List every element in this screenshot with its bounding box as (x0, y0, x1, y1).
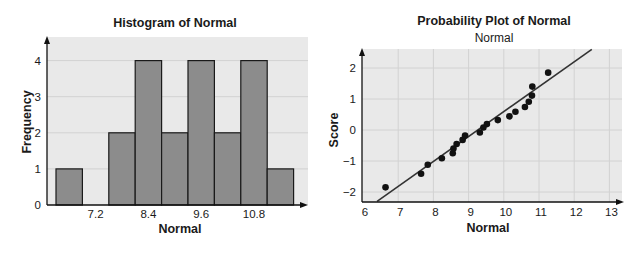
histogram-title: Histogram of Normal (113, 16, 237, 30)
data-point (382, 184, 389, 191)
histogram-y-axis-label: Frequency (20, 90, 34, 153)
data-point (529, 83, 536, 90)
y-tick-label: 1 (350, 93, 356, 105)
data-point (462, 132, 469, 139)
data-point (418, 170, 425, 177)
histogram-x-tick-labels: 7.28.49.610.8 (88, 208, 266, 220)
histogram-bar (162, 133, 188, 205)
histogram-bar (188, 61, 214, 205)
data-point (439, 155, 446, 162)
probability-plot-area (362, 49, 622, 202)
data-point (512, 108, 519, 115)
probability-y-axis-label: Score (327, 113, 341, 148)
y-tick-label: 2 (35, 127, 41, 139)
data-point (495, 117, 502, 124)
data-point (424, 161, 431, 168)
x-tick-label: 10.8 (243, 208, 265, 220)
x-tick-label: 12 (570, 206, 583, 218)
probability-y-tick-labels: −2−1012 (343, 62, 356, 198)
y-tick-label: −1 (343, 155, 356, 167)
histogram-bar (214, 133, 240, 205)
histogram-bar (135, 61, 161, 205)
y-tick-label: 2 (350, 62, 356, 74)
x-tick-label: 8 (432, 206, 438, 218)
probability-plot-chart: −2−1012 678910111213 Probability Plot of… (327, 14, 624, 235)
histogram-y-tick-labels: 01234 (35, 55, 42, 211)
probability-x-axis-label: Normal (466, 221, 509, 235)
histogram-bar (109, 133, 135, 205)
histogram-chart: 01234 7.28.49.610.8 Histogram of Normal … (20, 16, 308, 236)
histogram-bar (56, 169, 82, 205)
x-tick-label: 9.6 (193, 208, 209, 220)
histogram-bar (267, 169, 293, 205)
data-point (529, 92, 536, 99)
histogram-bar (241, 61, 267, 205)
charts-canvas: 01234 7.28.49.610.8 Histogram of Normal … (0, 0, 641, 254)
histogram-x-axis-label: Normal (158, 222, 201, 236)
data-point (522, 104, 529, 111)
probability-plot-subtitle: Normal (475, 31, 514, 45)
x-tick-label: 11 (535, 206, 547, 218)
data-point (545, 69, 552, 76)
x-tick-label: 10 (499, 206, 512, 218)
data-point (453, 141, 460, 148)
y-tick-label: 4 (35, 55, 42, 67)
x-tick-label: 7 (397, 206, 403, 218)
probability-plot-title: Probability Plot of Normal (417, 14, 571, 28)
y-tick-label: −2 (343, 186, 356, 198)
y-tick-label: 1 (35, 163, 41, 175)
x-tick-label: 7.2 (88, 208, 104, 220)
x-tick-label: 9 (467, 206, 473, 218)
y-tick-label: 0 (35, 199, 41, 211)
x-tick-label: 6 (362, 206, 368, 218)
probability-x-tick-labels: 678910111213 (362, 206, 618, 218)
data-point (484, 121, 491, 128)
data-point (506, 113, 513, 120)
y-tick-label: 3 (35, 91, 41, 103)
x-tick-label: 8.4 (140, 208, 157, 220)
x-tick-label: 13 (605, 206, 618, 218)
data-point (525, 98, 532, 105)
y-tick-label: 0 (350, 124, 356, 136)
